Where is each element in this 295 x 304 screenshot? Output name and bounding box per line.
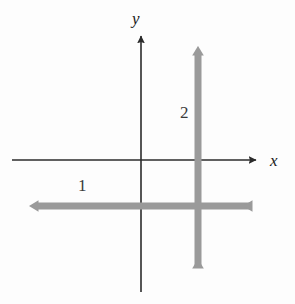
coordinate-axes bbox=[12, 36, 256, 292]
y-axis-label: y bbox=[130, 9, 140, 28]
x-axis-label: x bbox=[269, 151, 278, 170]
line-1-label: 1 bbox=[78, 176, 87, 195]
figure-container: y x 1 2 bbox=[0, 0, 295, 304]
line-2-label: 2 bbox=[180, 103, 189, 122]
axes-diagram: y x 1 2 bbox=[0, 0, 295, 304]
